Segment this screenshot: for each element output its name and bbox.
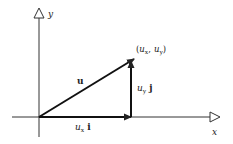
x-axis-label: x: [212, 127, 217, 137]
x-component-label: uxi: [75, 122, 91, 133]
y-component-label: uyj: [137, 83, 152, 95]
u-vector-label: u: [77, 76, 84, 86]
y-axis-label: y: [47, 9, 54, 19]
x-axis-arrowhead-icon: [210, 112, 220, 122]
y-axis-arrowhead-icon: [34, 8, 44, 18]
point-label: (ux,uy): [136, 44, 166, 56]
u-vector: [39, 59, 134, 117]
vector-diagram: y x (ux,uy) u uyj uxi: [0, 0, 233, 144]
